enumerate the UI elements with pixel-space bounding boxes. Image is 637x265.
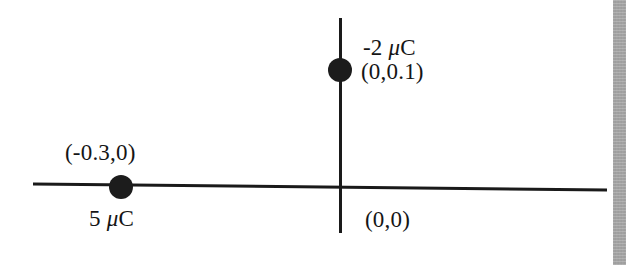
- label-origin: (0,0): [365, 208, 410, 231]
- label-charge-top-unit: C: [400, 35, 416, 60]
- label-charge-top-value: -2: [363, 35, 389, 60]
- scan-edge-band: [613, 0, 626, 265]
- micro-symbol-icon: μ: [107, 206, 119, 231]
- label-position-left: (-0.3,0): [65, 141, 136, 164]
- label-position-top: (0,0.1): [361, 60, 424, 83]
- label-charge-top: -2 μC: [363, 36, 416, 59]
- charge-marker-negative: [328, 58, 352, 82]
- charge-marker-positive: [109, 175, 133, 199]
- micro-symbol-icon: μ: [389, 35, 401, 60]
- label-charge-left-unit: C: [118, 206, 134, 231]
- label-charge-left-value: 5: [89, 206, 107, 231]
- label-charge-left: 5 μC: [89, 207, 134, 230]
- physics-diagram-figure: -2 μC (0,0.1) (-0.3,0) 5 μC (0,0): [0, 0, 637, 265]
